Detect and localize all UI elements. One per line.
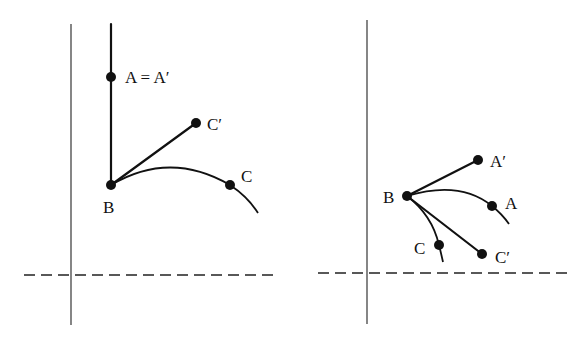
right-point-c-prime <box>477 249 487 259</box>
right-label-a: A <box>505 194 518 213</box>
left-segment-B-Cprime <box>111 123 196 185</box>
left-point-c-prime <box>191 118 201 128</box>
axes-layer <box>24 20 568 325</box>
lines-layer <box>111 24 509 262</box>
figure: A = A′BC′CBA′ACC′ <box>0 0 585 339</box>
right-label-b: B <box>383 188 394 207</box>
left-label-c: C <box>241 167 252 186</box>
right-label-a-prime: A′ <box>490 152 506 171</box>
right-label-c-prime: C′ <box>495 248 510 267</box>
left-point-b <box>106 180 116 190</box>
left-label-a: A = A′ <box>125 68 169 87</box>
left-label-c-prime: C′ <box>207 115 222 134</box>
right-label-c: C <box>414 239 425 258</box>
left-curve-B-C <box>111 168 258 214</box>
diagram-canvas: A = A′BC′CBA′ACC′ <box>0 0 585 339</box>
points-layer <box>106 72 497 259</box>
left-label-b: B <box>103 198 114 217</box>
right-point-a <box>487 201 497 211</box>
left-point-c <box>225 180 235 190</box>
right-point-a-prime <box>473 155 483 165</box>
right-point-c <box>434 240 444 250</box>
right-point-b <box>402 191 412 201</box>
left-point-a <box>106 72 116 82</box>
